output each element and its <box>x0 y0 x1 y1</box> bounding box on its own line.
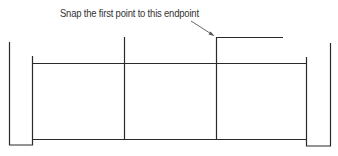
left-post <box>10 42 33 145</box>
pointer-arrow-icon <box>191 21 215 36</box>
annotation-label: Snap the first point to this endpoint <box>60 7 199 19</box>
right-post <box>307 43 331 146</box>
fence-diagram <box>0 0 338 156</box>
